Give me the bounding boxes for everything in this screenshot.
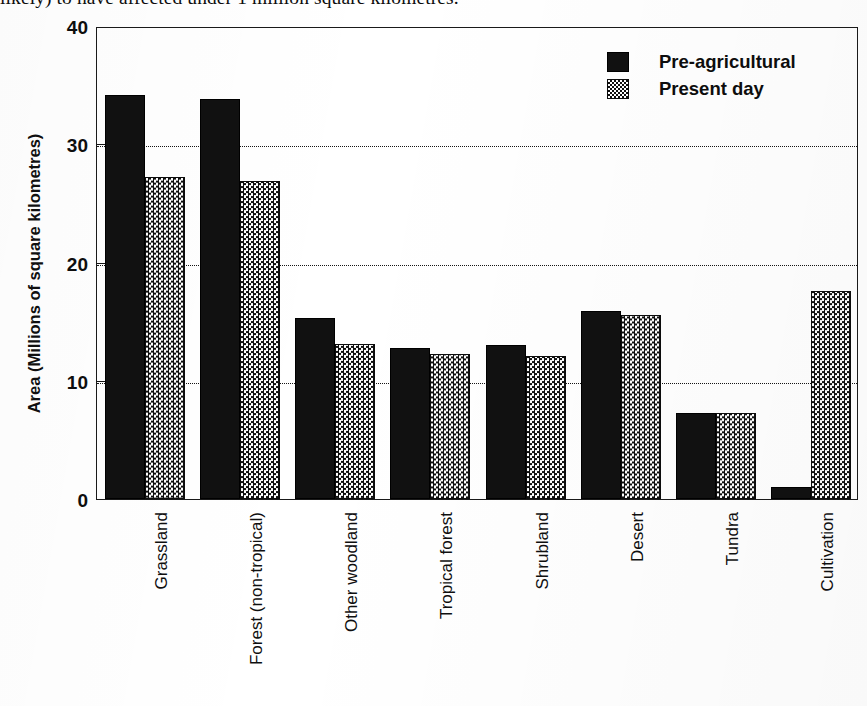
x-axis-category-label: Desert	[628, 512, 648, 562]
bar-present-day	[240, 181, 280, 499]
bar-pre-agricultural	[295, 318, 335, 499]
x-axis-category-label: Cultivation	[818, 512, 838, 591]
x-axis-category-label: Tropical forest	[437, 512, 457, 619]
bar-present-day	[621, 315, 661, 499]
y-axis-title: Area (Millions of square kilometres)	[25, 74, 44, 474]
chart-legend: Pre-agricultural Present day	[607, 48, 857, 102]
x-axis-category-label: Other woodland	[342, 512, 362, 632]
bar-pre-agricultural	[676, 413, 716, 499]
y-tick-label-40: 40	[42, 18, 88, 37]
y-tick-label-0: 0	[42, 491, 88, 510]
legend-item-pre-agricultural: Pre-agricultural	[607, 48, 857, 75]
y-tick-label-10: 10	[42, 372, 88, 391]
checkered-grey-swatch-icon	[607, 79, 629, 99]
bar-pre-agricultural	[771, 487, 811, 499]
x-axis-category-label: Grassland	[152, 512, 172, 589]
solid-black-swatch-icon	[607, 52, 629, 72]
bar-present-day	[430, 354, 470, 499]
bar-pre-agricultural	[390, 348, 430, 499]
bar-pre-agricultural	[486, 345, 526, 499]
legend-label: Present day	[659, 78, 764, 100]
bar-present-day	[811, 291, 851, 499]
bar-present-day	[526, 356, 566, 499]
x-axis-category-label: Tundra	[723, 512, 743, 565]
y-tick-mark-30	[96, 144, 105, 145]
x-axis-category-label: Shrubland	[533, 512, 553, 590]
y-tick-mark-10	[96, 381, 105, 382]
bar-chart-figure: 010203040 Area (Millions of square kilom…	[0, 0, 867, 706]
y-tick-label-30: 30	[42, 136, 88, 155]
bar-pre-agricultural	[105, 95, 145, 499]
y-tick-mark-20	[96, 263, 105, 264]
bar-present-day	[145, 177, 185, 499]
legend-label: Pre-agricultural	[659, 51, 796, 73]
bar-present-day	[716, 413, 756, 499]
y-tick-label-20: 20	[42, 254, 88, 273]
bar-pre-agricultural	[581, 311, 621, 499]
bar-pre-agricultural	[200, 99, 240, 499]
bar-present-day	[335, 344, 375, 499]
x-axis-category-label: Forest (non-tropical)	[247, 512, 267, 665]
legend-item-present-day: Present day	[607, 75, 857, 102]
